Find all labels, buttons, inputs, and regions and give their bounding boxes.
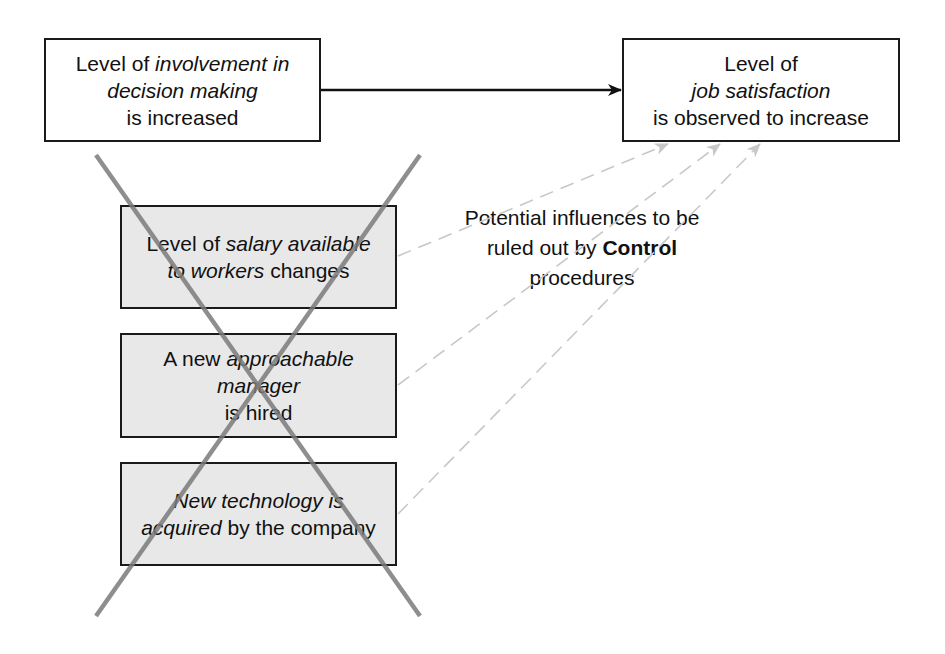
control-annotation: Potential influences to be ruled out by … bbox=[432, 203, 732, 293]
confound-manager-line-3: is hired bbox=[225, 399, 293, 426]
annotation-line-1: Potential influences to be bbox=[432, 203, 732, 233]
annotation-line-2: ruled out by Control bbox=[432, 233, 732, 263]
cause-line-2: decision making bbox=[107, 77, 258, 104]
confound-manager-line-2: manager bbox=[217, 372, 300, 399]
confound-box-salary: Level of salary available to workers cha… bbox=[120, 205, 397, 309]
effect-box: Level of job satisfaction is observed to… bbox=[622, 38, 900, 142]
confound-box-manager: A new approachable manager is hired bbox=[120, 333, 397, 438]
effect-line-3: is observed to increase bbox=[653, 104, 869, 131]
cause-line-1: Level of involvement in bbox=[76, 50, 290, 77]
confound-box-technology: New technology is acquired by the compan… bbox=[120, 462, 397, 566]
effect-line-1: Level of bbox=[724, 50, 798, 77]
cause-line-3: is increased bbox=[126, 104, 238, 131]
confound-technology-line-1: New technology is bbox=[173, 487, 343, 514]
cause-box: Level of involvement in decision making … bbox=[44, 38, 321, 142]
confound-manager-line-1: A new approachable bbox=[163, 345, 353, 372]
confound-technology-line-2: acquired by the company bbox=[141, 514, 376, 541]
confound-salary-line-2: to workers changes bbox=[167, 257, 349, 284]
confound-salary-line-1: Level of salary available bbox=[146, 230, 370, 257]
influence-arrow-technology bbox=[398, 144, 760, 514]
effect-line-2: job satisfaction bbox=[692, 77, 831, 104]
annotation-line-3: procedures bbox=[432, 263, 732, 293]
